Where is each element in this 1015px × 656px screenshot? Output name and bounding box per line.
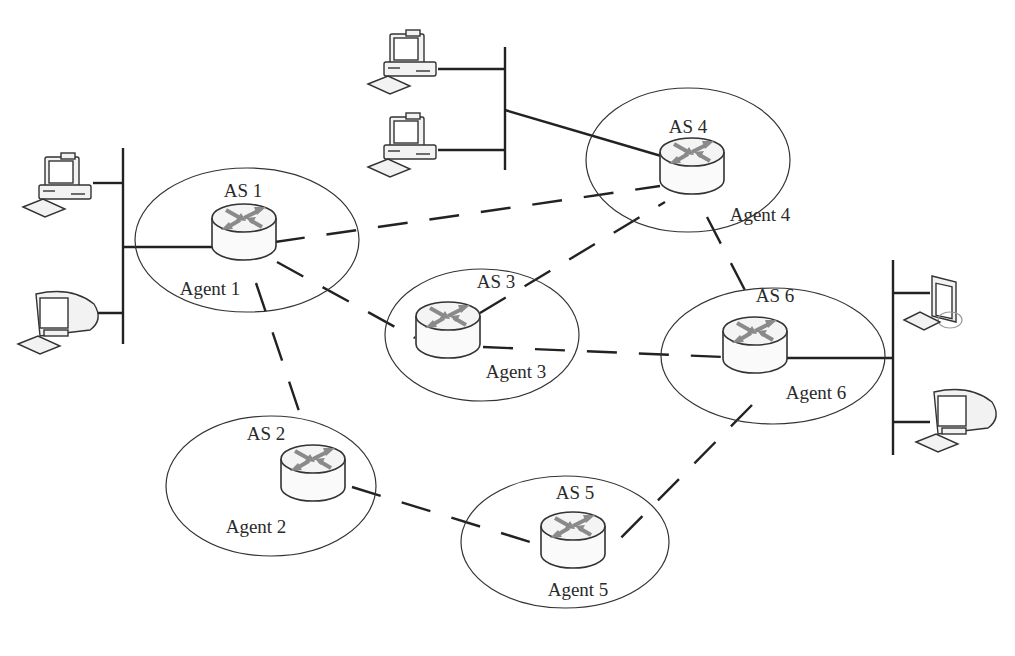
as4-agent-label: Agent 4 <box>730 204 791 225</box>
computer-icon <box>368 113 436 177</box>
link-as6-as5 <box>607 405 752 552</box>
router-icon <box>281 445 345 501</box>
link-as3-as6 <box>483 347 725 357</box>
computer-icon <box>904 276 962 330</box>
router-icon <box>723 317 787 373</box>
router-icon <box>541 512 605 568</box>
as1-agent-label: Agent 1 <box>180 278 241 299</box>
computer-icon <box>23 153 91 217</box>
link-as2-as5 <box>352 487 540 545</box>
lan-segments <box>18 30 996 455</box>
router-icon <box>416 302 480 358</box>
link-as3-as4 <box>480 202 665 313</box>
computer-icon <box>368 30 436 94</box>
as3-agent-label: Agent 3 <box>486 361 547 382</box>
as1-label: AS 1 <box>224 180 263 201</box>
routers <box>212 138 787 568</box>
lan-top <box>368 30 668 177</box>
as6-label: AS 6 <box>756 285 795 306</box>
computer-icon <box>916 390 996 452</box>
as4-label: AS 4 <box>669 116 708 137</box>
network-diagram: AS 1Agent 1AS 2Agent 2AS 3Agent 3AS 4Age… <box>0 0 1015 656</box>
as2-label: AS 2 <box>247 423 286 444</box>
router-icon <box>212 204 276 260</box>
link-as1-as2 <box>256 283 302 420</box>
computer-icon <box>18 292 98 354</box>
as6-agent-label: Agent 6 <box>786 382 847 403</box>
lan-left <box>18 148 212 354</box>
router-icon <box>660 138 724 194</box>
lan-right <box>784 260 996 455</box>
as2-agent-label: Agent 2 <box>226 516 287 537</box>
as5-agent-label: Agent 5 <box>548 579 609 600</box>
as3-label: AS 3 <box>477 271 516 292</box>
as5-label: AS 5 <box>556 482 595 503</box>
